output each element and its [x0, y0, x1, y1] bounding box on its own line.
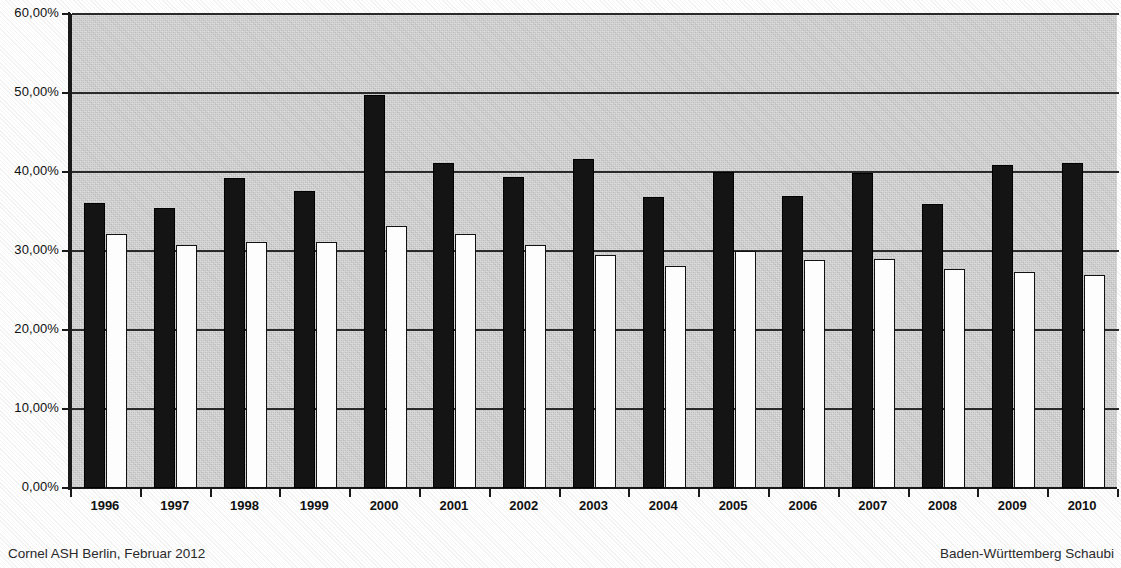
x-tick-origin [70, 489, 72, 497]
bar-bw-2009 [992, 165, 1013, 488]
footer-source-note: Cornel ASH Berlin, Februar 2012 [8, 546, 205, 561]
x-tick-2006 [838, 489, 840, 497]
bar-brd-2001 [455, 234, 476, 488]
x-tick-2010 [1117, 489, 1119, 497]
x-tick-1999 [349, 489, 351, 497]
x-axis-label-1999: 1999 [284, 498, 344, 513]
bar-brd-1998 [246, 242, 267, 488]
bar-bw-1996 [84, 203, 105, 488]
bar-bw-2005 [713, 172, 734, 488]
x-axis-label-1997: 1997 [145, 498, 205, 513]
figure-footer: Cornel ASH Berlin, Februar 2012 Baden-Wü… [0, 526, 1121, 568]
y-tick-20 [62, 329, 71, 331]
plot-area [70, 14, 1117, 488]
y-tick-10 [62, 408, 71, 410]
bar-bw-2007 [852, 173, 873, 488]
x-axis-label-2004: 2004 [633, 498, 693, 513]
bar-bw-2006 [782, 196, 803, 488]
bar-bw-2008 [922, 204, 943, 488]
y-tick-60 [62, 13, 71, 15]
x-tick-1997 [210, 489, 212, 497]
y-tick-30 [62, 250, 71, 252]
x-axis-label-2010: 2010 [1052, 498, 1112, 513]
y-axis-label-20: 20,00% [0, 321, 59, 336]
x-axis-label-1998: 1998 [215, 498, 275, 513]
gridline-40 [72, 171, 1119, 173]
x-tick-2000 [419, 489, 421, 497]
bar-chart-figure: 60,00%50,00%40,00%30,00%20,00%10,00%0,00… [0, 0, 1121, 568]
x-tick-2009 [1047, 489, 1049, 497]
gridline-50 [72, 92, 1119, 94]
bar-brd-2009 [1014, 272, 1035, 488]
x-tick-2004 [698, 489, 700, 497]
y-axis-label-0: 0,00% [0, 479, 59, 494]
bar-bw-2010 [1062, 163, 1083, 488]
bar-brd-2008 [944, 269, 965, 488]
x-axis-label-2008: 2008 [913, 498, 973, 513]
x-tick-1996 [140, 489, 142, 497]
x-axis-label-2009: 2009 [982, 498, 1042, 513]
y-tick-50 [62, 92, 71, 94]
bar-brd-2006 [804, 260, 825, 488]
x-tick-2002 [559, 489, 561, 497]
bar-bw-2000 [364, 95, 385, 488]
y-tick-40 [62, 171, 71, 173]
x-tick-2001 [489, 489, 491, 497]
x-axis-label-2001: 2001 [424, 498, 484, 513]
x-axis-label-2003: 2003 [564, 498, 624, 513]
x-tick-2003 [628, 489, 630, 497]
x-tick-2007 [908, 489, 910, 497]
bar-brd-1997 [176, 245, 197, 488]
bar-brd-2004 [665, 266, 686, 488]
x-axis-label-2006: 2006 [773, 498, 833, 513]
x-tick-1998 [279, 489, 281, 497]
bar-brd-2000 [386, 226, 407, 488]
bar-bw-1999 [294, 191, 315, 488]
bar-brd-2007 [874, 259, 895, 488]
x-tick-2005 [768, 489, 770, 497]
x-axis-label-2002: 2002 [494, 498, 554, 513]
bar-bw-2001 [433, 163, 454, 488]
y-axis-label-50: 50,00% [0, 84, 59, 99]
bar-brd-1996 [106, 234, 127, 488]
bar-bw-2003 [573, 159, 594, 488]
footer-caption: Baden-Württemberg Schaubi [940, 546, 1114, 561]
bar-bw-1997 [154, 208, 175, 488]
bar-brd-2003 [595, 255, 616, 488]
x-axis-label-1996: 1996 [75, 498, 135, 513]
x-axis-label-2007: 2007 [843, 498, 903, 513]
bar-brd-2010 [1084, 275, 1105, 488]
bar-brd-2005 [735, 251, 756, 488]
y-axis-label-10: 10,00% [0, 400, 59, 415]
bar-bw-1998 [224, 178, 245, 488]
y-axis-label-60: 60,00% [0, 5, 59, 20]
bar-bw-2002 [503, 177, 524, 488]
bar-bw-2004 [643, 197, 664, 489]
y-axis-label-40: 40,00% [0, 163, 59, 178]
bar-brd-2002 [525, 245, 546, 488]
x-axis-label-2005: 2005 [703, 498, 763, 513]
bar-brd-1999 [316, 242, 337, 488]
gridline-60 [72, 13, 1119, 15]
y-axis-label-30: 30,00% [0, 242, 59, 257]
x-tick-2008 [977, 489, 979, 497]
x-axis-label-2000: 2000 [354, 498, 414, 513]
